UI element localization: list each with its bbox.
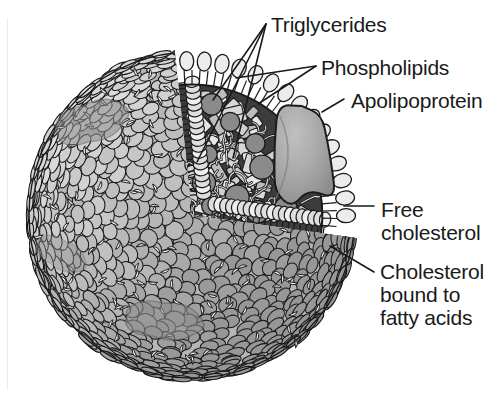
label-free-cholesterol: Free cholesterol [381, 198, 480, 244]
apolipoprotein-body [274, 105, 334, 203]
label-phospholipids: Phospholipids [321, 56, 449, 79]
label-apolipoprotein: Apolipoprotein [351, 89, 482, 112]
label-triglycerides: Triglycerides [271, 13, 387, 36]
lipoprotein-figure: Triglycerides Phospholipids Apolipoprote… [0, 0, 497, 401]
label-cholesterol-bound: Cholesterol bound to fatty acids [380, 260, 484, 329]
